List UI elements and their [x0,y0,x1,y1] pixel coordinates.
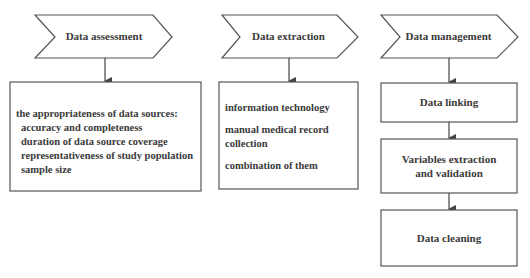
header-label: Data extraction [252,30,325,43]
extraction-item: combination of them [225,159,347,173]
step-variables-extraction: Variables extraction and validation [381,139,517,193]
extraction-content: information technology manual medical re… [225,101,347,173]
step-label: Data cleaning [417,232,481,245]
step-label: Variables extraction and validation [381,152,517,180]
header-data-management: Data management [400,15,497,58]
header-label: Data assessment [66,30,143,43]
assessment-item: sample size [16,163,200,177]
step-data-linking: Data linking [381,83,517,122]
header-label: Data management [406,30,492,43]
assessment-item: duration of data source coverage [16,135,200,149]
extraction-item: information technology [225,101,347,115]
assessment-item: accuracy and completeness [16,121,200,135]
assessment-item: representativeness of study population [16,149,200,163]
flow-diagram: Data assessment Data extraction Data man… [0,0,530,278]
step-label: Data linking [420,96,478,109]
header-data-extraction: Data extraction [240,15,337,58]
assessment-content: the appropriateness of data sources: acc… [16,107,200,177]
header-data-assessment: Data assessment [55,15,153,58]
assessment-title: the appropriateness of data sources: [16,107,200,121]
step-data-cleaning: Data cleaning [381,210,517,266]
extraction-item: manual medical record collection [225,123,347,151]
